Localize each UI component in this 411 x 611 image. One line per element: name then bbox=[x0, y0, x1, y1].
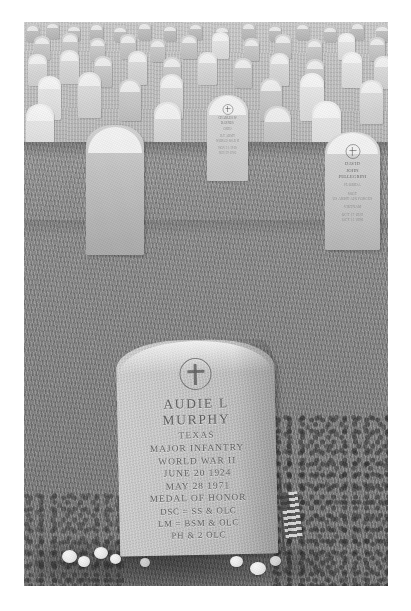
midground-headstone-center: CHARLES W BARNES OHIO 1LT ARMY WORLD WAR… bbox=[207, 95, 248, 181]
cross-vertical bbox=[194, 363, 198, 384]
white-flower bbox=[94, 547, 108, 559]
headstone-inscription: AUDIE L MURPHY TEXAS MAJOR INFANTRY WORL… bbox=[117, 394, 278, 542]
bg-center-sub-5: JUN 29 1985 bbox=[207, 151, 248, 155]
photograph: CHARLES W BARNES OHIO 1LT ARMY WORLD WAR… bbox=[24, 22, 388, 586]
inscription-name-line-2: MURPHY bbox=[117, 410, 275, 429]
audie-murphy-headstone: AUDIE L MURPHY TEXAS MAJOR INFANTRY WORL… bbox=[116, 338, 278, 556]
bg-right-sub-3: US ARMY AIR FORCES bbox=[325, 197, 380, 202]
bg-right-name-3: PELLEGRINI bbox=[325, 174, 380, 180]
bg-center-name-2: BARNES bbox=[207, 121, 248, 125]
white-flower bbox=[140, 558, 150, 567]
bg-center-sub-3: WORLD WAR II bbox=[207, 139, 248, 143]
distant-headstone bbox=[150, 39, 165, 62]
white-flower bbox=[78, 556, 90, 567]
bg-right-sub-1: FLORIDA bbox=[325, 183, 380, 188]
white-flower bbox=[250, 562, 266, 575]
flag-canton bbox=[280, 492, 290, 509]
cross-icon bbox=[222, 104, 233, 115]
midground-headstone-left bbox=[86, 125, 144, 255]
distant-headstone bbox=[198, 52, 217, 85]
bg-right-sub-4: VIETNAM bbox=[325, 205, 380, 210]
white-flower bbox=[62, 550, 77, 563]
distant-headstone bbox=[181, 35, 197, 59]
distant-headstone bbox=[324, 26, 336, 42]
cross-horizontal bbox=[187, 370, 204, 374]
rows-of-headstones bbox=[24, 22, 388, 150]
cross-icon bbox=[345, 144, 360, 159]
bg-right-sub-6: OCT 11 1998 bbox=[325, 218, 380, 223]
bg-center-sub-2: 1LT ARMY bbox=[207, 134, 248, 138]
bg-right-name-1: DAVID bbox=[325, 161, 380, 167]
distant-headstone bbox=[60, 50, 79, 84]
distant-headstone bbox=[138, 22, 151, 40]
midground-headstone-right: DAVID JOHN PELLEGRINI FLORIDA SSGT US AR… bbox=[325, 132, 380, 250]
headstone-cap bbox=[88, 127, 143, 153]
bg-center-sub-4: NOV 11 1918 bbox=[207, 146, 248, 150]
distant-headstone bbox=[119, 79, 141, 121]
distant-headstone bbox=[360, 80, 383, 124]
distant-headstone bbox=[164, 25, 176, 41]
bg-center-sub-1: OHIO bbox=[207, 127, 248, 131]
white-flower bbox=[270, 556, 281, 566]
distant-headstone bbox=[78, 72, 101, 118]
white-flower bbox=[230, 556, 243, 567]
bg-right-name-2: JOHN bbox=[325, 168, 380, 174]
photo-page: CHARLES W BARNES OHIO 1LT ARMY WORLD WAR… bbox=[0, 0, 411, 611]
distant-headstone bbox=[342, 52, 362, 88]
distant-headstone bbox=[46, 22, 59, 39]
white-flower bbox=[110, 554, 121, 564]
distant-headstone bbox=[234, 58, 252, 88]
distant-headstone bbox=[296, 23, 309, 40]
